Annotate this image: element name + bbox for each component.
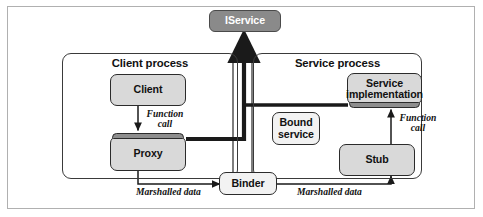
node-iservice-label: IService [225, 15, 265, 26]
service-process-title: Service process [295, 57, 380, 69]
edge-label-stub-to-service-impl-line2: call [411, 122, 425, 133]
node-proxy-label: Proxy [134, 148, 163, 159]
node-iservice[interactable]: IService [209, 10, 281, 32]
node-service-implementation-label-line2: implementation [346, 89, 423, 100]
node-bound-service-label-line1: Bound [279, 117, 312, 128]
diagram-canvas: IService Client process Service process … [0, 0, 483, 217]
edge-label-proxy-to-binder: Marshalled data [136, 187, 201, 197]
node-stub[interactable]: Stub [339, 144, 415, 176]
edge-label-binder-to-stub: Marshalled data [297, 187, 362, 197]
node-bound-service-label-line2: service [278, 129, 314, 140]
node-binder[interactable]: Binder [219, 172, 277, 195]
node-binder-label: Binder [232, 178, 265, 189]
edge-label-stub-to-service-impl: Function call [394, 113, 442, 133]
node-stub-label: Stub [365, 154, 388, 165]
client-process-title: Client process [112, 57, 188, 69]
edge-label-binder-to-stub-text: Marshalled data [297, 186, 362, 197]
edge-label-proxy-to-binder-text: Marshalled data [136, 186, 201, 197]
edge-label-client-to-proxy: Function call [141, 109, 189, 129]
node-client-label: Client [134, 84, 163, 95]
node-client[interactable]: Client [110, 74, 186, 106]
node-bound-service[interactable]: Bound service [272, 112, 320, 145]
edge-label-client-to-proxy-line2: call [158, 118, 172, 129]
node-service-implementation[interactable]: Service implementation [347, 73, 422, 105]
node-proxy[interactable]: Proxy [110, 136, 186, 171]
